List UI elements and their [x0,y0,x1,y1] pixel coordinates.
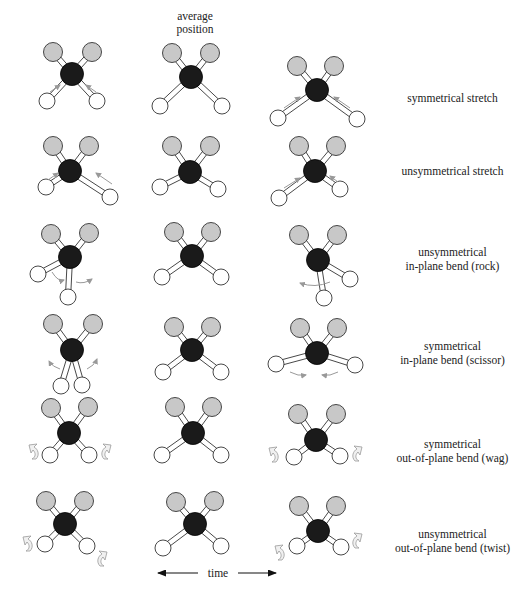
mode-label-twist: unsymmetrical out-of-plane bend (twist) [383,527,522,555]
substituent-atom [290,137,309,156]
time-label: time [200,566,236,580]
molecule [289,497,349,556]
hydrogen-atom [347,357,363,373]
substituent-atom [163,137,182,156]
molecule [152,44,230,115]
carbon-atom [304,160,327,183]
substituent-atom [201,137,220,156]
molecule [39,43,105,110]
average-position-header: average position [160,10,230,36]
molecule [30,224,99,306]
carbon-atom [179,161,202,184]
molecule [268,319,363,374]
carbon-atom [307,249,330,272]
substituent-atom [165,223,184,242]
hydrogen-atom [333,539,349,555]
hydrogen-atom [60,289,76,305]
substituent-atom [288,57,307,76]
rotation-arrow-icon [29,444,38,459]
substituent-atom [44,137,63,156]
molecule [290,226,359,307]
header-line-2: position [160,23,230,36]
rotation-arrow-icon [23,536,32,551]
rotation-arrow-icon [353,446,362,461]
hydrogen-atom [89,93,105,109]
molecule [154,398,229,464]
substituent-atom [290,226,309,245]
motion-arrow-icon [87,359,97,369]
rotation-arrow-icon [98,551,107,566]
carbon-atom [307,520,330,543]
hydrogen-atom [316,290,332,306]
hydrogen-atom [81,447,97,463]
hydrogen-atom [213,364,229,380]
molecule-grid [30,43,365,557]
mode-label-wag: symmetrical out-of-plane bend (wag) [385,437,520,465]
molecule [37,492,96,555]
mode-label-unsymmetrical-stretch: unsymmetrical stretch [385,164,520,178]
carbon-atom [180,66,203,89]
substituent-atom [37,492,56,511]
substituent-atom [202,318,221,337]
carbon-atom [181,245,204,268]
carbon-atom [182,422,205,445]
motion-arrow-icon [322,372,338,375]
hydrogen-atom [289,538,305,554]
substituent-atom [44,43,63,62]
hydrogen-atom [79,538,95,554]
motion-arrows [23,85,362,566]
carbon-atom [181,339,204,362]
mode-label-rock: unsymmetrical in-plane bend (rock) [385,245,520,273]
molecule [270,57,365,128]
hydrogen-atom [102,189,118,205]
substituent-atom [289,405,308,424]
substituent-atom [42,225,61,244]
motion-arrow-icon [49,361,60,369]
hydrogen-atom [152,98,168,114]
carbon-atom [306,342,329,365]
substituent-atom [42,399,61,418]
substituent-atom [202,223,221,242]
carbon-atom [59,246,82,269]
molecule [38,137,118,206]
molecule [155,492,229,557]
hydrogen-atom [210,181,226,197]
substituent-atom [166,398,185,417]
motion-arrow-icon [52,272,64,280]
substituent-atom [44,315,63,334]
rotation-arrow-icon [275,545,284,560]
substituent-atom [75,492,94,511]
motion-arrow-icon [300,282,330,286]
hydrogen-atom [154,447,170,463]
molecule [154,223,229,286]
substituent-atom [327,405,346,424]
carbon-atom [306,79,329,102]
carbon-atom [61,63,84,86]
hydrogen-atom [270,110,286,126]
substituent-atom [80,137,99,156]
hydrogen-atom [38,179,54,195]
motion-arrow-icon [96,173,112,184]
hydrogen-atom [74,377,90,393]
mode-label-scissor: symmetrical in-plane bend (scissor) [385,339,520,367]
substituent-atom [84,315,103,334]
hydrogen-atom [42,447,58,463]
molecule [286,405,348,466]
header-line-1: average [160,10,230,23]
carbon-atom [58,422,81,445]
molecule [44,315,103,395]
hydrogen-atom [349,111,365,127]
substituent-atom [163,44,182,63]
molecule [42,398,98,464]
molecule [271,137,348,207]
hydrogen-atom [271,190,287,206]
substituent-atom [290,497,309,516]
substituent-atom [327,497,346,516]
carbon-atom [305,429,328,452]
substituent-atom [205,492,224,511]
carbon-atom [184,513,207,536]
mode-label-symmetrical-stretch: symmetrical stretch [385,91,520,105]
hydrogen-atom [39,93,55,109]
substituent-atom [328,226,347,245]
hydrogen-atom [213,538,229,554]
